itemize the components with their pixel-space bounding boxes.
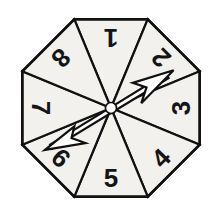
sector-number-3: 3 bbox=[166, 101, 196, 115]
sector-number-7: 7 bbox=[26, 101, 56, 115]
sector-number-1: 1 bbox=[104, 23, 118, 53]
spinner-graphic[interactable]: 1 2 3 4 5 6 7 8 bbox=[0, 0, 216, 216]
needle-pivot-hub bbox=[106, 103, 117, 114]
spinner-figure: 1 2 3 4 5 6 7 8 bbox=[0, 0, 216, 216]
sector-number-5: 5 bbox=[104, 163, 118, 193]
